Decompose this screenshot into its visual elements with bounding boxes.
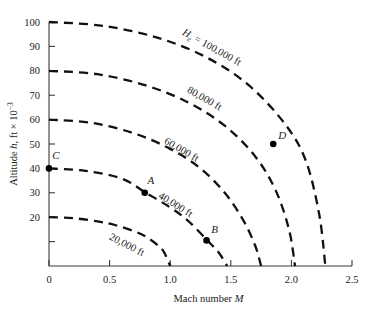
point-label-b: B [211,223,218,235]
y-tick-label: 20 [30,212,41,223]
data-point-c [46,165,53,172]
x-tick-label: 2.0 [285,274,298,285]
curve-label: 80,000 ft [186,84,224,113]
x-tick-label: 1.0 [164,274,177,285]
point-label-a: A [146,174,154,186]
x-tick-label: 1.5 [224,274,237,285]
curve-label: 60,000 ft [162,135,200,164]
data-point-d [270,141,277,148]
curve-h-e-100-000-ft [49,22,325,266]
y-tick-label: 60 [30,114,41,125]
x-tick-label: 0 [46,274,51,285]
curve-label: 40,000 ft [157,190,195,219]
y-axis-title: Altitude h, ft × 10−3 [6,102,19,186]
data-point-a [141,190,148,197]
y-tick-label: 70 [30,90,41,101]
point-label-d: D [277,129,286,141]
y-tick-label: 40 [30,163,41,174]
y-tick-label: 100 [24,17,40,28]
x-axis-title: Mach number M [174,293,245,304]
chart-svg: 203040506070809010000.51.01.52.02.5 20,0… [0,0,390,312]
axis-lines [49,22,352,266]
y-tick-label: 50 [30,139,41,150]
data-point-b [203,237,210,244]
y-tick-label: 80 [30,65,41,76]
x-tick-label: 0.5 [103,274,116,285]
point-label-c: C [52,149,60,161]
x-tick-label: 2.5 [345,274,358,285]
energy-height-chart: 203040506070809010000.51.01.52.02.5 20,0… [0,0,390,312]
curve-80-000-ft [49,71,295,266]
curve-labels: 20,000 ft40,000 ft60,000 ft80,000 ftHe =… [108,26,244,258]
axis-titles: Mach number MAltitude h, ft × 10−3 [6,102,245,304]
y-tick-label: 30 [30,187,41,198]
curve-series [49,22,325,266]
y-tick-label: 90 [30,41,41,52]
